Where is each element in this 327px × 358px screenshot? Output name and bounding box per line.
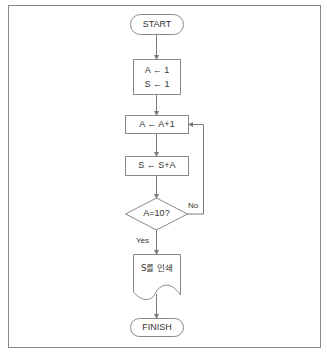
finish-label: FINISH [130, 323, 184, 332]
init-label-s: S ← 1 [133, 80, 181, 89]
init-label-a: A ← 1 [133, 66, 181, 75]
increment-a-label: A ← A+1 [125, 120, 189, 129]
yes-branch-label: Yes [136, 237, 149, 245]
add-s-label: S ← S+A [125, 161, 189, 170]
start-label: START [130, 20, 184, 29]
flowchart-canvas [0, 0, 327, 358]
print-document-shape [134, 255, 181, 300]
print-label: S를 인쇄 [133, 264, 181, 273]
no-branch-label: No [188, 202, 198, 210]
decision-label: A=10? [125, 209, 188, 218]
